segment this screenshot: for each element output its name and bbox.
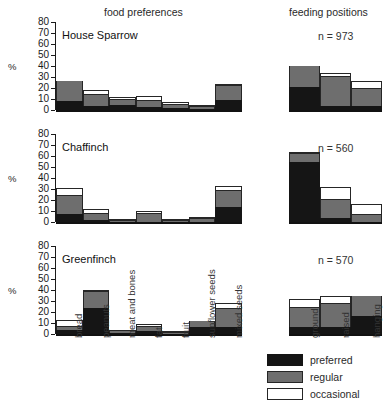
bar-segment-preferred xyxy=(109,105,136,111)
bar-hanging[interactable] xyxy=(351,81,382,110)
legend-item-preferred[interactable]: preferred xyxy=(267,352,360,367)
legend-item-regular[interactable]: regular xyxy=(267,369,360,384)
bar-fruit[interactable] xyxy=(162,219,189,222)
x-axis-label-peanuts: peanuts xyxy=(100,304,111,338)
y-axis-tick-label: 0 xyxy=(23,330,49,338)
y-axis-tick-mark xyxy=(51,178,55,179)
legend-label-occasional: occasional xyxy=(310,388,360,400)
y-axis-tick-label: 0 xyxy=(23,106,49,114)
y-axis-tick-label: 30 xyxy=(23,185,49,193)
y-axis-tick-label: 60 xyxy=(23,264,49,272)
y-axis: 01020304050607080 xyxy=(22,22,56,110)
y-axis-tick-label: 10 xyxy=(23,319,49,327)
y-axis-tick-mark xyxy=(51,211,55,212)
y-axis-tick-mark xyxy=(51,134,55,135)
bar-segment-occasional xyxy=(351,204,382,215)
y-axis-tick-mark xyxy=(51,290,55,291)
legend: preferredregularoccasional xyxy=(267,352,360,403)
species-row-greenfinch: 01020304050607080Greenfinchn = 570 xyxy=(0,246,391,350)
bar-peanuts[interactable] xyxy=(83,209,110,222)
bar-segment-regular xyxy=(215,191,242,206)
plot-feeding-positions xyxy=(289,246,382,336)
bar-segment-regular xyxy=(162,221,189,223)
y-axis-tick-label: 40 xyxy=(23,286,49,294)
y-axis-tick-label: 20 xyxy=(23,308,49,316)
bar-fat[interactable] xyxy=(136,96,163,110)
bar-fruit[interactable] xyxy=(162,102,189,110)
bar-meat-and-bones[interactable] xyxy=(109,219,136,222)
x-axis-label-fat: fat xyxy=(153,327,164,338)
y-axis-tick-label: 80 xyxy=(23,130,49,138)
bar-segment-preferred xyxy=(56,214,83,222)
y-axis-tick-mark xyxy=(51,268,55,269)
bar-segment-regular xyxy=(320,200,351,218)
y-axis-tick-mark xyxy=(51,246,55,247)
x-axis-label-bread: bread xyxy=(73,314,84,338)
bar-raised[interactable] xyxy=(320,187,351,222)
y-axis-tick-mark xyxy=(51,110,55,111)
y-axis-tick-mark xyxy=(51,301,55,302)
y-axis-tick-label: 70 xyxy=(23,29,49,37)
bar-segment-preferred xyxy=(289,87,320,110)
bar-mixed-seeds[interactable] xyxy=(215,186,242,222)
bar-segment-occasional xyxy=(320,187,351,200)
bar-segment-regular xyxy=(56,81,83,101)
y-axis-tick-label: 40 xyxy=(23,62,49,70)
bar-meat-and-bones[interactable] xyxy=(109,97,136,110)
bar-sunflower-seeds[interactable] xyxy=(189,105,216,111)
bar-bread[interactable] xyxy=(56,81,83,110)
bar-sunflower-seeds[interactable] xyxy=(189,217,216,223)
column-header-feeding-positions: feeding positions xyxy=(289,6,368,18)
bar-segment-preferred xyxy=(162,108,189,110)
bar-ground[interactable] xyxy=(289,66,320,110)
bar-segment-occasional xyxy=(320,296,351,305)
y-axis: 01020304050607080 xyxy=(22,246,56,334)
bar-segment-regular xyxy=(320,77,351,106)
bar-segment-regular xyxy=(215,86,242,100)
bar-bread[interactable] xyxy=(56,188,83,222)
bar-segment-regular xyxy=(351,89,382,106)
y-axis-tick-label: 0 xyxy=(23,218,49,226)
y-axis-tick-mark xyxy=(51,257,55,258)
legend-label-preferred: preferred xyxy=(310,354,353,366)
bar-hanging[interactable] xyxy=(351,204,382,222)
y-axis-tick-label: 80 xyxy=(23,242,49,250)
bar-segment-preferred xyxy=(215,207,242,222)
bar-segment-preferred xyxy=(83,106,110,110)
bar-segment-occasional xyxy=(289,299,320,308)
x-axis-label-sunflower-seeds: sunflower seeds xyxy=(206,269,217,338)
y-axis-tick-label: 50 xyxy=(23,163,49,171)
y-axis-tick-mark xyxy=(51,66,55,67)
bar-segment-preferred xyxy=(320,218,351,222)
y-axis-tick-mark xyxy=(51,334,55,335)
x-axis-label-raised: raised xyxy=(340,312,351,338)
y-axis-tick-mark xyxy=(51,323,55,324)
y-axis-tick-label: 40 xyxy=(23,174,49,182)
bar-fat[interactable] xyxy=(136,211,163,222)
legend-item-occasional[interactable]: occasional xyxy=(267,386,360,401)
y-axis-tick-mark xyxy=(51,33,55,34)
bar-segment-regular xyxy=(189,219,216,222)
legend-swatch-occasional xyxy=(267,388,303,400)
bar-segment-preferred xyxy=(189,109,216,111)
y-axis-tick-mark xyxy=(51,44,55,45)
legend-swatch-regular xyxy=(267,371,303,383)
y-axis-tick-mark xyxy=(51,55,55,56)
y-axis-tick-label: 10 xyxy=(23,207,49,215)
y-axis-tick-label: 70 xyxy=(23,253,49,261)
plot-food-preferences xyxy=(56,22,242,112)
y-axis-tick-label: 30 xyxy=(23,297,49,305)
bar-peanuts[interactable] xyxy=(83,90,110,110)
y-axis-tick-label: 30 xyxy=(23,73,49,81)
legend-label-regular: regular xyxy=(310,371,343,383)
bar-segment-preferred xyxy=(215,100,242,110)
bar-segment-preferred xyxy=(351,106,382,110)
plot-feeding-positions xyxy=(289,22,382,112)
y-axis-tick-mark xyxy=(51,77,55,78)
x-axis-label-meat-and-bones: meat and bones xyxy=(126,270,137,338)
bar-mixed-seeds[interactable] xyxy=(215,85,242,110)
y-axis-tick-label: 80 xyxy=(23,18,49,26)
bar-raised[interactable] xyxy=(320,73,351,110)
y-axis-tick-label: 70 xyxy=(23,141,49,149)
bar-ground[interactable] xyxy=(289,152,320,222)
